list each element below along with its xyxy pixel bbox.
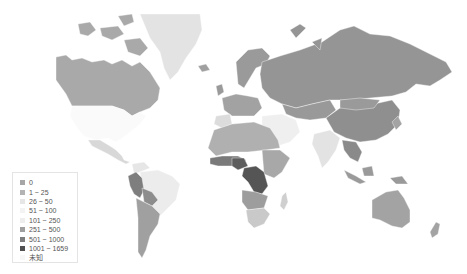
region-southeast-asia[interactable] xyxy=(342,140,362,162)
region-novaya-zemlya[interactable] xyxy=(290,24,322,50)
region-mongolia[interactable] xyxy=(340,98,380,110)
legend-item-501-1000[interactable]: 501 ~ 1000 xyxy=(20,234,77,243)
region-india[interactable] xyxy=(312,130,340,168)
legend-label-26-50: 26 ~ 50 xyxy=(29,197,53,206)
legend-item-251-500[interactable]: 251 ~ 500 xyxy=(20,225,77,234)
region-indonesia[interactable] xyxy=(344,166,408,184)
legend-swatch-51-100 xyxy=(20,208,25,213)
region-iceland[interactable] xyxy=(198,64,210,72)
region-east-africa[interactable] xyxy=(262,150,290,178)
region-australia[interactable] xyxy=(372,190,410,228)
legend-swatch-501-1000 xyxy=(20,237,25,242)
region-southern-africa[interactable] xyxy=(246,208,270,228)
legend-swatch-101-250 xyxy=(20,218,25,223)
legend-label-unknown: 未知 xyxy=(29,253,43,262)
legend-item-1-25[interactable]: 1 ~ 25 xyxy=(20,187,77,196)
region-canada-islands[interactable] xyxy=(78,14,148,56)
legend-item-101-250[interactable]: 101 ~ 250 xyxy=(20,216,77,225)
legend-label-501-1000: 501 ~ 1000 xyxy=(29,235,64,244)
legend-swatch-0 xyxy=(20,180,25,185)
region-new-zealand[interactable] xyxy=(430,222,440,238)
legend-swatch-251-500 xyxy=(20,227,25,232)
region-madagascar[interactable] xyxy=(280,192,288,210)
legend-swatch-26-50 xyxy=(20,199,25,204)
legend-item-1001-1659[interactable]: 1001 ~ 1659 xyxy=(20,244,77,253)
region-mexico[interactable] xyxy=(88,140,130,164)
legend-label-251-500: 251 ~ 500 xyxy=(29,225,60,234)
legend-swatch-unknown xyxy=(20,255,25,260)
legend-swatch-1001-1659 xyxy=(20,246,25,251)
legend-item-26-50[interactable]: 26 ~ 50 xyxy=(20,197,77,206)
legend-item-51-100[interactable]: 51 ~ 100 xyxy=(20,206,77,215)
legend-label-51-100: 51 ~ 100 xyxy=(29,206,56,215)
region-angola-zambia[interactable] xyxy=(242,190,268,210)
region-greenland[interactable] xyxy=(140,14,202,80)
region-russia[interactable] xyxy=(260,26,452,108)
legend-label-0: 0 xyxy=(29,178,33,187)
legend-label-1001-1659: 1001 ~ 1659 xyxy=(29,244,68,253)
legend-label-1-25: 1 ~ 25 xyxy=(29,188,49,197)
region-western-europe[interactable] xyxy=(222,94,262,116)
region-uk[interactable] xyxy=(216,84,224,96)
legend-swatch-1-25 xyxy=(20,190,25,195)
legend-item-0[interactable]: 0 xyxy=(20,178,77,187)
legend-item-unknown[interactable]: 未知 xyxy=(20,253,77,262)
map-legend: 0 1 ~ 25 26 ~ 50 51 ~ 100 101 ~ 250 251 … xyxy=(12,172,78,263)
legend-label-101-250: 101 ~ 250 xyxy=(29,216,60,225)
